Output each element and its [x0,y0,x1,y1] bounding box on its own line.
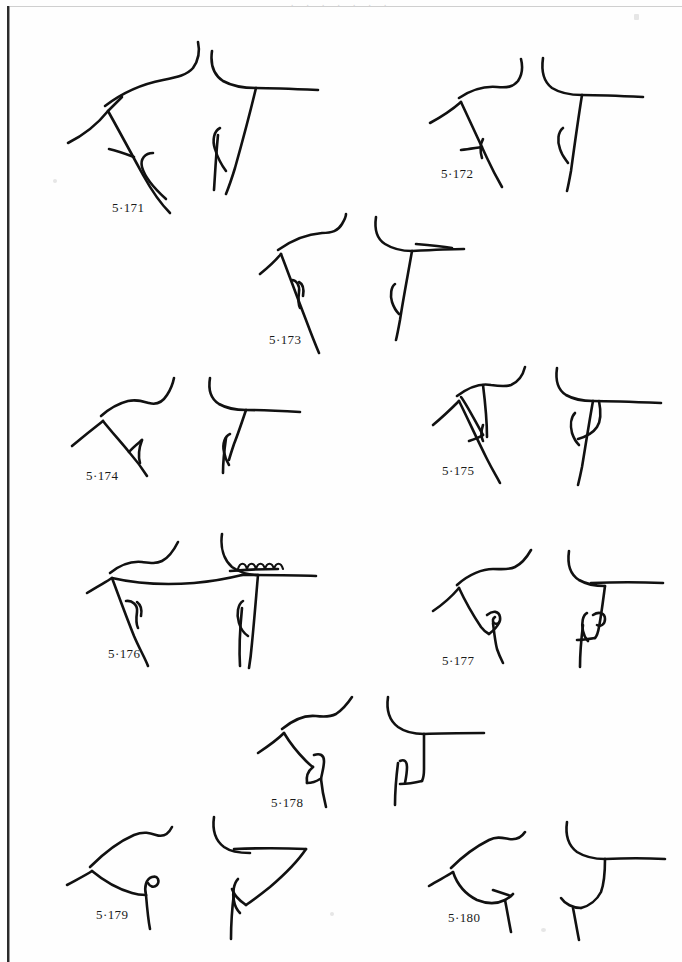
page-border-left-shadow [9,6,10,962]
figure-5-178-perspective-view [258,697,352,807]
figure-5-180: 5·180 [425,818,675,953]
figure-5-171-section-view [211,51,318,194]
figure-label-5-174: 5·174 [86,468,118,484]
figure-5-180-section-view [561,822,665,940]
figure-label-5-176: 5·176 [108,646,140,662]
figure-label-5-171: 5·171 [112,200,144,216]
scan-speck [330,912,334,916]
figure-5-174-perspective-view [72,378,174,476]
figure-label-5-172: 5·172 [441,166,473,182]
figure-5-177: 5·177 [425,545,675,675]
figure-5-172-section-view [542,58,643,191]
figure-5-176-section-view [221,534,316,668]
figure-5-175: 5·175 [425,363,675,493]
figure-label-5-175: 5·175 [442,463,474,479]
figure-5-176: 5·176 [82,528,372,673]
figure-label-5-178: 5·178 [271,795,303,811]
page-border-top [7,6,682,7]
scan-speck [541,928,546,932]
figure-5-174-section-view [209,378,300,473]
figure-5-178: 5·178 [252,695,502,815]
figure-5-178-section-view [387,697,484,805]
figure-5-172: 5·172 [425,48,665,198]
figure-5-174: 5·174 [62,368,312,488]
figure-label-5-179: 5·179 [96,907,128,923]
figure-5-171: 5·171 [60,35,350,220]
figure-5-173: 5·173 [250,212,500,357]
figure-5-179-section-view [213,817,306,939]
figure-label-5-173: 5·173 [269,332,301,348]
scan-speck [53,179,57,183]
figure-5-171-perspective-view [68,42,199,213]
figure-5-177-section-view [568,551,663,667]
figure-label-5-180: 5·180 [448,910,480,926]
figure-5-175-section-view [556,368,661,485]
illustration-plate: . . . . . . . 5·171 [0,0,682,962]
figure-5-173-section-view [375,217,464,340]
figure-label-5-177: 5·177 [442,653,474,669]
figure-5-177-perspective-view [433,550,531,663]
figure-5-179: 5·179 [62,815,322,955]
scan-speck [634,14,639,20]
